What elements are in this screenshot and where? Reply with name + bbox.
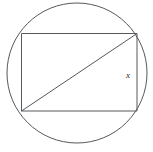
figure-canvas: x <box>0 0 153 152</box>
side-label-x: x <box>125 70 130 80</box>
geometry-figure: x <box>0 0 153 152</box>
rectangle-diagonal <box>22 34 138 112</box>
